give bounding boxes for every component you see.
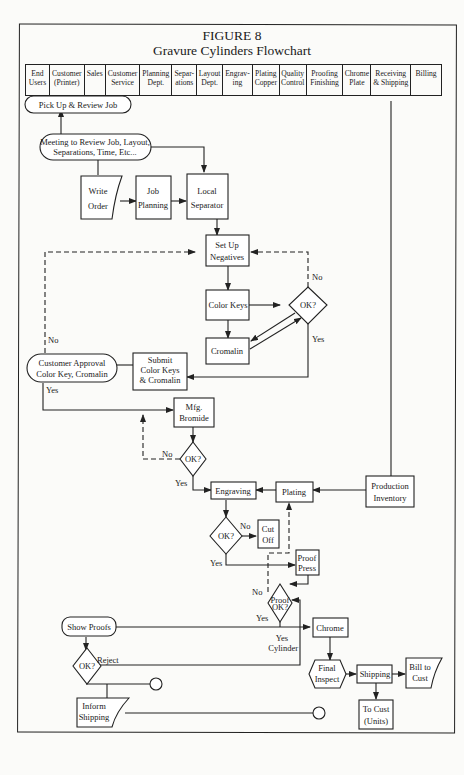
node-plating: Plating (276, 482, 313, 502)
svg-text:Final: Final (318, 663, 336, 673)
label-customer-no: No (48, 335, 58, 345)
svg-text:Negatives: Negatives (210, 252, 244, 262)
node-inform-shipping: Inform Shipping (77, 698, 129, 727)
node-terminator-2 (313, 707, 325, 719)
svg-text:OK?: OK? (218, 531, 234, 541)
label-yes-cylinder-1: Yes (276, 633, 288, 643)
label-customer-yes: Yes (46, 385, 58, 395)
node-show-proofs: Show Proofs (62, 617, 116, 636)
svg-text:Meeting to Review Job, Layout,: Meeting to Review Job, Layout, (40, 137, 150, 147)
svg-text:Bill to: Bill to (409, 662, 431, 672)
node-shipping: Shipping (357, 665, 392, 683)
svg-text:Pick Up & Review Job: Pick Up & Review Job (39, 100, 117, 110)
node-ok1-decision: OK? (289, 287, 327, 324)
label-reject: Reject (97, 655, 119, 665)
edge-reject-to-proofok (100, 600, 300, 665)
label-proof-yes: Yes (256, 613, 268, 623)
svg-text:Inventory: Inventory (373, 493, 407, 503)
edge-ok3-yes-to-proofpress (226, 554, 295, 565)
svg-text:OK?: OK? (79, 661, 95, 671)
label-proof-no: No (252, 587, 262, 597)
flowchart-canvas: Pick Up & Review Job Meeting to Review J… (0, 0, 464, 775)
label-ok3-no: No (240, 521, 250, 531)
node-to-cust-units: To Cust (Units) (359, 700, 393, 729)
svg-text:Bromide: Bromide (179, 413, 209, 423)
node-cut-off: Cut Off (258, 520, 279, 548)
label-ok3-yes: Yes (210, 558, 222, 568)
node-engraving: Engraving (211, 482, 256, 499)
svg-text:Proof: Proof (298, 553, 317, 563)
edge-ok2-yes-to-engraving (193, 476, 211, 490)
svg-text:Color Keys: Color Keys (141, 365, 180, 375)
node-mfg-bromide: Mfg. Bromide (174, 398, 214, 427)
svg-text:Write: Write (88, 186, 107, 196)
svg-text:Cut: Cut (262, 524, 275, 534)
label-ok1-no: No (312, 272, 322, 282)
label-ok2-no: No (162, 449, 172, 459)
node-pick-up-review-job: Pick Up & Review Job (25, 96, 131, 113)
edge-customer-no-to-negatives (45, 252, 195, 353)
svg-text:Chrome: Chrome (316, 623, 344, 633)
node-customer-approval: Customer Approval Color Key, Cromalin (27, 354, 117, 382)
svg-text:Planning: Planning (138, 200, 169, 210)
node-chrome: Chrome (313, 618, 348, 637)
svg-text:Separations, Time, Etc...: Separations, Time, Etc... (53, 147, 136, 157)
node-ok2-decision: OK? (180, 442, 206, 476)
svg-text:Plating: Plating (282, 487, 307, 497)
node-meeting: Meeting to Review Job, Layout, Separatio… (40, 134, 151, 160)
svg-text:Mfg.: Mfg. (186, 402, 203, 412)
svg-text:Inform: Inform (82, 701, 106, 711)
label-ok1-yes: Yes (312, 334, 324, 344)
node-final-inspect: Final Inspect (309, 660, 346, 688)
node-proof-press: Proof Press (296, 550, 319, 575)
node-job-planning: Job Planning (136, 176, 171, 219)
edge-cromalin-to-ok1 (250, 318, 301, 349)
node-bill-to-cust: Bill to Cust (406, 658, 442, 688)
node-set-up-negatives: Set Up Negatives (206, 235, 249, 266)
node-production-inventory: Production Inventory (366, 476, 414, 507)
svg-text:Show Proofs: Show Proofs (67, 622, 111, 632)
label-yes-cylinder-2: Cylinder (268, 643, 298, 653)
svg-text:Separator: Separator (191, 200, 224, 210)
svg-text:Color Key, Cromalin: Color Key, Cromalin (36, 369, 108, 379)
svg-text:Submit: Submit (148, 355, 173, 365)
svg-text:& Cromalin: & Cromalin (140, 375, 182, 385)
node-ok4-decision: OK? (73, 648, 101, 684)
svg-text:Shipping: Shipping (79, 712, 110, 722)
svg-text:Color Keys: Color Keys (209, 300, 248, 310)
node-local-separator: Local Separator (187, 174, 228, 219)
svg-text:(Units): (Units) (364, 716, 388, 726)
svg-text:OK?: OK? (272, 602, 288, 612)
svg-text:Set Up: Set Up (215, 240, 238, 250)
edge-ok1-no-to-negatives (251, 252, 308, 287)
svg-text:Job: Job (147, 186, 159, 196)
edge-ok1-to-cromalin (251, 313, 295, 341)
node-cromalin: Cromalin (206, 338, 249, 364)
svg-text:Order: Order (88, 201, 108, 211)
svg-text:Press: Press (298, 563, 316, 573)
node-terminator-1 (150, 678, 162, 690)
node-write-order: Write Order (81, 176, 122, 219)
node-proof-ok-decision: Proof OK? (268, 584, 292, 622)
svg-text:Shipping: Shipping (360, 669, 391, 679)
svg-text:Production: Production (371, 481, 409, 491)
edge-meeting-to-separator (150, 147, 204, 172)
svg-text:To Cust: To Cust (363, 704, 390, 714)
node-submit-color-keys: Submit Color Keys & Cromalin (133, 353, 187, 390)
svg-text:Cromalin: Cromalin (211, 346, 244, 356)
svg-text:Local: Local (197, 186, 217, 196)
node-ok3-decision: OK? (210, 517, 242, 554)
svg-text:Engraving: Engraving (215, 486, 251, 496)
svg-text:Off: Off (262, 535, 274, 545)
label-ok2-yes: Yes (175, 478, 187, 488)
svg-text:Cust: Cust (412, 673, 428, 683)
svg-text:Inspect: Inspect (315, 674, 340, 684)
edge-proofpress-to-proofok (290, 575, 308, 584)
svg-text:OK?: OK? (185, 454, 201, 464)
node-color-keys: Color Keys (206, 290, 249, 320)
svg-text:Customer Approval: Customer Approval (39, 358, 106, 368)
svg-text:OK?: OK? (300, 300, 316, 310)
